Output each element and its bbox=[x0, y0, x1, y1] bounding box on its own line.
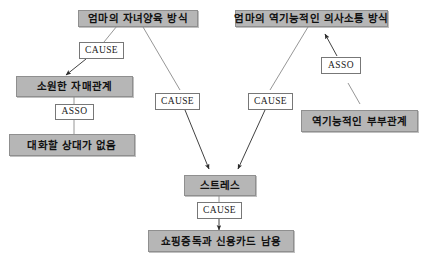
edge-n2-to-n6-lower bbox=[238, 110, 265, 169]
node-shopping-addiction-credit-card-abuse[interactable]: 쇼핑중독과 신용카드 남용 bbox=[148, 230, 294, 252]
node-distant-sister-relationship[interactable]: 소원한 자매관계 bbox=[16, 76, 133, 97]
node-label: 엄마의 자녀양육 방식 bbox=[88, 13, 188, 24]
edge-label-cause-parenting-to-sister[interactable]: CAUSE bbox=[79, 42, 124, 59]
edge-label-asso-sister-to-noone[interactable]: ASSO bbox=[55, 104, 94, 120]
edge-label-cause-stress-to-shopping[interactable]: CAUSE bbox=[197, 202, 242, 219]
node-label: 역기능적인 부부관계 bbox=[312, 116, 408, 127]
edge-label-cause-parenting-to-stress[interactable]: CAUSE bbox=[155, 93, 200, 110]
node-mother-dysfunctional-communication[interactable]: 엄마의 역기능적인 의사소통 방식 bbox=[235, 10, 388, 27]
edge-n1-to-n3-upper bbox=[104, 26, 117, 42]
edge-n1-to-n6-lower bbox=[185, 110, 209, 169]
node-label: 대화할 상대가 없음 bbox=[27, 140, 116, 151]
edge-label-text: CAUSE bbox=[254, 97, 287, 107]
edge-label-asso-marital-to-communication[interactable]: ASSO bbox=[321, 57, 361, 74]
node-dysfunctional-marital-relationship[interactable]: 역기능적인 부부관계 bbox=[301, 110, 418, 132]
edge-n1-to-n3-lower bbox=[66, 59, 86, 75]
edge-label-text: CAUSE bbox=[203, 206, 236, 216]
node-label: 쇼핑중독과 신용카드 남용 bbox=[161, 236, 281, 247]
edge-label-text: CAUSE bbox=[85, 46, 118, 56]
edge-n5-to-n2-upper bbox=[325, 34, 337, 56]
node-label: 소원한 자매관계 bbox=[37, 81, 112, 92]
edge-n2-to-n6-upper bbox=[270, 27, 308, 90]
node-mother-parenting-style[interactable]: 엄마의 자녀양육 방식 bbox=[78, 10, 198, 27]
edge-label-text: ASSO bbox=[62, 107, 88, 117]
diagram-canvas: 엄마의 자녀양육 방식 엄마의 역기능적인 의사소통 방식 소원한 자매관계 대… bbox=[0, 0, 428, 268]
edge-label-cause-communication-to-stress[interactable]: CAUSE bbox=[248, 93, 293, 110]
node-stress[interactable]: 스트레스 bbox=[184, 175, 256, 196]
node-no-one-to-talk-to[interactable]: 대화할 상대가 없음 bbox=[9, 134, 135, 156]
edge-label-text: ASSO bbox=[328, 61, 354, 71]
edge-n1-to-n6-upper bbox=[143, 27, 180, 90]
node-label: 스트레스 bbox=[200, 180, 241, 191]
edge-n5-to-n2-lower bbox=[348, 83, 360, 104]
node-label: 엄마의 역기능적인 의사소통 방식 bbox=[234, 13, 388, 24]
edge-label-text: CAUSE bbox=[161, 97, 194, 107]
